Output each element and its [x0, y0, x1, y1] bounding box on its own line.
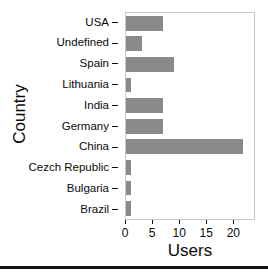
x-tick-mark-icon — [152, 220, 153, 224]
y-tick-label: Undefined — [57, 37, 109, 49]
y-tick-cezch-republic: Cezch Republic — [26, 158, 118, 179]
y-tick-label: Lithuania — [62, 79, 109, 91]
bar-row — [126, 116, 254, 137]
y-tick-mark-icon — [112, 188, 118, 189]
y-tick-mark-icon — [112, 105, 118, 106]
y-tick-label: Bulgaria — [67, 183, 109, 195]
bar-usa — [126, 16, 163, 31]
y-tick-mark-icon — [112, 43, 118, 44]
y-tick-mark-icon — [112, 209, 118, 210]
y-tick-usa: USA — [26, 12, 118, 33]
y-tick-mark-icon — [112, 63, 118, 64]
bottom-divider — [0, 266, 268, 269]
x-tick-label: 5 — [149, 226, 156, 240]
bar-bulgaria — [126, 181, 131, 196]
bar-row — [126, 54, 254, 75]
bar-row — [126, 178, 254, 199]
bar-cezch-republic — [126, 160, 131, 175]
y-tick-mark-icon — [112, 147, 118, 148]
bar-row — [126, 157, 254, 178]
y-tick-label: Brazil — [80, 204, 109, 216]
x-axis-title: Users — [125, 241, 255, 261]
y-tick-label: India — [84, 100, 109, 112]
y-tick-germany: Germany — [26, 116, 118, 137]
y-tick-india: India — [26, 95, 118, 116]
bar-row — [126, 198, 254, 219]
x-tick-mark-icon — [233, 220, 234, 224]
y-tick-mark-icon — [112, 167, 118, 168]
x-tick-label: 10 — [172, 226, 185, 240]
y-tick-label: Spain — [80, 58, 109, 70]
y-tick-label: USA — [85, 17, 109, 29]
x-tick-label: 15 — [200, 226, 213, 240]
y-tick-mark-icon — [112, 126, 118, 127]
x-tick-label: 0 — [122, 226, 129, 240]
y-tick-bulgaria: Bulgaria — [26, 178, 118, 199]
bar-chart-figure: Country USAUndefinedSpainLithuaniaIndiaG… — [0, 0, 268, 262]
bar-row — [126, 137, 254, 158]
bar-undefined — [126, 36, 142, 51]
y-axis-tick-labels: USAUndefinedSpainLithuaniaIndiaGermanyCh… — [26, 12, 118, 220]
y-tick-undefined: Undefined — [26, 33, 118, 54]
y-tick-label: Cezch Republic — [28, 162, 109, 174]
x-tick-label: 20 — [227, 226, 240, 240]
bar-row — [126, 95, 254, 116]
x-tick-mark-icon — [179, 220, 180, 224]
bar-row — [126, 75, 254, 96]
bar-germany — [126, 119, 163, 134]
bar-spain — [126, 57, 174, 72]
x-tick-mark-icon — [206, 220, 207, 224]
y-tick-label: Germany — [62, 121, 109, 133]
plot-panel — [125, 12, 255, 220]
y-tick-china: China — [26, 137, 118, 158]
bar-series — [126, 13, 254, 219]
bar-row — [126, 34, 254, 55]
bar-lithuania — [126, 78, 131, 93]
bar-brazil — [126, 201, 131, 216]
bar-india — [126, 98, 163, 113]
y-tick-mark-icon — [112, 22, 118, 23]
x-axis-tick-labels: 05101520 — [125, 226, 255, 242]
x-tick-mark-icon — [125, 220, 126, 224]
y-tick-label: China — [79, 141, 109, 153]
y-tick-brazil: Brazil — [26, 199, 118, 220]
y-tick-lithuania: Lithuania — [26, 74, 118, 95]
y-tick-spain: Spain — [26, 54, 118, 75]
y-tick-mark-icon — [112, 84, 118, 85]
bar-row — [126, 13, 254, 34]
bar-china — [126, 139, 243, 154]
